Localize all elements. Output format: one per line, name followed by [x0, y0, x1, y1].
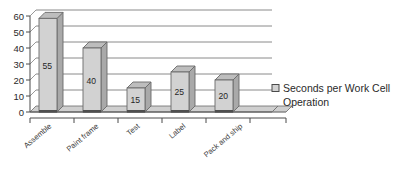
- chart-floor: [30, 106, 292, 112]
- x-category-label: Pack and ship: [202, 122, 244, 160]
- y-tick-label: 50: [13, 27, 24, 38]
- y-axis: [26, 16, 30, 112]
- legend-label-line1: Seconds per Work Cell: [283, 82, 390, 94]
- x-category-label: Assemble: [22, 122, 53, 150]
- x-category-label: Label: [167, 121, 187, 140]
- bar-group[interactable]: 55: [39, 12, 63, 112]
- y-tick-label: 60: [13, 11, 24, 22]
- bar-value-label: 55: [43, 61, 53, 71]
- bar-value-label: 20: [219, 91, 229, 101]
- bar-value-label: 15: [131, 95, 141, 105]
- bar-value-label: 40: [87, 76, 97, 86]
- bar-group[interactable]: 15: [127, 82, 151, 112]
- chart-svg: 60 50 40 30 20 10 0 55: [0, 0, 401, 170]
- x-category-label: Test: [125, 121, 142, 137]
- legend-swatch-icon: [272, 85, 279, 92]
- y-tick-label: 20: [13, 75, 24, 86]
- legend-label-line2: Operation: [283, 96, 329, 108]
- x-axis: [30, 118, 286, 123]
- chart-legend[interactable]: Seconds per Work Cell Operation: [272, 82, 390, 108]
- bar-group[interactable]: 25: [171, 66, 195, 112]
- bar-value-label: 25: [175, 87, 185, 97]
- y-tick-label: 10: [13, 91, 24, 102]
- y-tick-label: 0: [19, 107, 24, 118]
- y-tick-label: 30: [13, 59, 24, 70]
- bar-group[interactable]: 40: [83, 42, 107, 112]
- x-category-labels: Assemble Paint frame Test Label Pack and…: [22, 121, 244, 159]
- x-category-label: Paint frame: [65, 122, 101, 154]
- y-tick-label: 40: [13, 43, 24, 54]
- bar-group[interactable]: 20: [215, 74, 239, 112]
- bar-chart: 60 50 40 30 20 10 0 55: [0, 0, 401, 170]
- y-tick-labels: 60 50 40 30 20 10 0: [13, 11, 24, 118]
